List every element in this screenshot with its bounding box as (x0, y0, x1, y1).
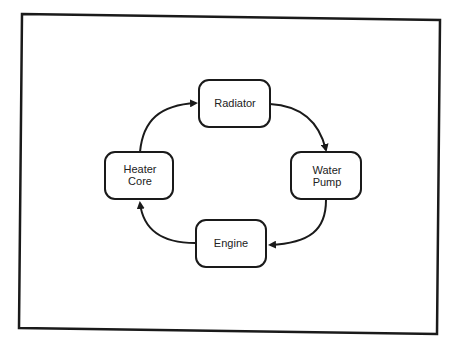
node-radiator: Radiator (199, 80, 270, 127)
diagram-frame (19, 14, 440, 334)
arrow-heater-core-to-radiator (140, 103, 196, 152)
arrow-engine-to-heater-core (140, 203, 195, 243)
arrow-radiator-to-water-pump (270, 104, 326, 150)
node-heater-core: Heater Core (105, 152, 173, 199)
node-heater-core-label-line1: Heater (123, 163, 156, 175)
arrow-water-pump-to-engine (270, 200, 326, 245)
node-water-pump-label-line2: Pump (313, 176, 342, 188)
node-heater-core-label-line2: Core (128, 175, 152, 187)
node-radiator-label: Radiator (214, 97, 256, 109)
node-water-pump-label-line1: Water (313, 164, 342, 176)
node-engine: Engine (196, 220, 266, 267)
cooling-cycle-diagram: Radiator Water Pump Engine Heater Core (0, 0, 458, 350)
node-engine-label: Engine (214, 237, 248, 249)
node-water-pump: Water Pump (291, 152, 361, 199)
